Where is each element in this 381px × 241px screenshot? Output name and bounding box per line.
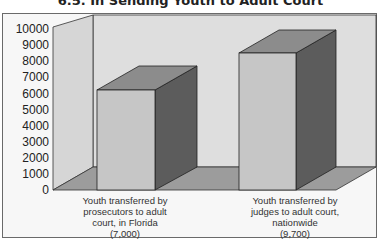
- y-tick-7000: 7000: [22, 71, 49, 83]
- y-tick-2000: 2000: [22, 152, 49, 164]
- x-label-bar2-line3: nationwide: [230, 217, 360, 228]
- bar2-side: [296, 30, 336, 190]
- y-tick-3000: 3000: [22, 136, 49, 148]
- x-label-bar2-line1: Youth transferred by: [230, 195, 360, 206]
- y-tick-1000: 1000: [22, 168, 49, 180]
- x-label-bar1-line4: (7,000): [60, 228, 190, 239]
- x-label-bar1-line3: court, in Florida: [60, 217, 190, 228]
- x-label-bar1: Youth transferred by prosecutors to adul…: [60, 195, 190, 239]
- y-tick-8000: 8000: [22, 55, 49, 67]
- x-label-bar2: Youth transferred by judges to adult cou…: [230, 195, 360, 239]
- y-tick-0: 0: [42, 184, 49, 196]
- y-tick-5000: 5000: [22, 104, 49, 116]
- bar1-front: [97, 90, 155, 190]
- y-tick-10000: 10000: [16, 23, 49, 35]
- y-tick-6000: 6000: [22, 88, 49, 100]
- bar-nationwide-judges: [239, 30, 336, 190]
- bar2-front: [239, 53, 296, 190]
- x-label-bar1-line2: prosecutors to adult: [60, 206, 190, 217]
- y-tick-9000: 9000: [22, 39, 49, 51]
- x-label-bar1-line1: Youth transferred by: [60, 195, 190, 206]
- x-label-bar2-line2: judges to adult court,: [230, 206, 360, 217]
- x-label-bar2-line4: (9,700): [230, 228, 360, 239]
- bar-florida-prosecutors: [97, 66, 197, 190]
- y-tick-4000: 4000: [22, 120, 49, 132]
- left-wall: [53, 15, 93, 190]
